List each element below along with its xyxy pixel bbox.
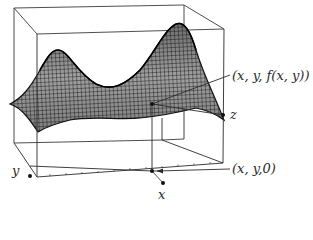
x-axis-label: x	[158, 188, 165, 201]
x-axis-point	[161, 181, 165, 185]
surface-mesh	[10, 23, 224, 132]
surface-point-label: (x, y, f(x, y))	[232, 69, 310, 82]
y-axis-point	[28, 174, 32, 178]
y-axis-label: y	[12, 164, 19, 177]
surface-point	[150, 102, 154, 106]
plane-point	[150, 169, 154, 173]
z-axis-label: z	[230, 108, 237, 121]
plane-point-label: (x, y,0)	[232, 162, 276, 175]
z-axis-point	[221, 113, 225, 117]
